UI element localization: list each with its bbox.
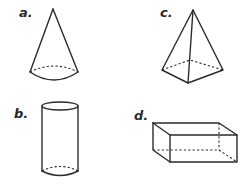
pyramid-figure: c. [160,5,223,83]
solids-diagram: a. c. b. d. [0,0,245,187]
cone-left-edge [30,9,53,72]
cone-right-edge [53,9,78,72]
cylinder-bottom-front [42,171,78,176]
prism-top-back-edge [153,123,237,135]
label-d: d. [134,108,148,123]
pyramid-hidden-base-edges [162,60,223,70]
label-a: a. [19,5,33,20]
cone-base-back [30,66,78,72]
prism-front-face [170,135,237,162]
cone-figure: a. [19,5,78,80]
prism-top-left-edge [153,123,170,135]
prism-figure: d. [134,108,237,162]
cylinder-top [42,102,78,110]
prism-hidden-bottom [153,150,237,162]
cylinder-figure: b. [14,102,78,176]
cylinder-bottom-back [42,167,78,172]
label-b: b. [14,106,28,121]
cone-base-front [30,72,78,80]
label-c: c. [160,5,173,20]
